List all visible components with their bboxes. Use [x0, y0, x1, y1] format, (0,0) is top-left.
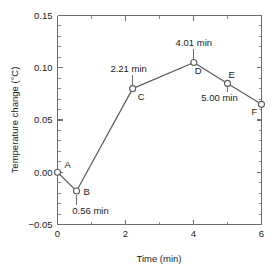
x-axis-title: Time (min)	[136, 253, 181, 264]
data-point-marker-e	[225, 80, 231, 86]
x-tick-label: 2	[123, 228, 128, 239]
data-point-marker-f	[259, 101, 265, 107]
callout-text-e: 5.00 min	[201, 92, 237, 103]
y-tick-label: 0.15	[34, 10, 53, 21]
callout-text-c: 2.21 min	[110, 63, 146, 74]
x-tick-label: 6	[259, 228, 264, 239]
y-axis-title: Temperature change (°C)	[9, 67, 20, 174]
point-label-d: D	[195, 65, 202, 76]
top-axis-minor-ticks	[92, 16, 228, 21]
data-point-marker-c	[130, 86, 136, 92]
point-label-c: C	[138, 91, 145, 102]
y-tick-label: 0.05	[34, 114, 53, 125]
point-label-f: F	[252, 106, 258, 117]
data-series-line	[58, 63, 262, 192]
y-tick-label: −0.05	[28, 219, 52, 230]
y-tick-label: 0.00	[34, 167, 53, 178]
point-label-b: B	[84, 186, 90, 197]
y-axis-tick-labels: 0.150.100.050.00−0.05	[28, 10, 52, 230]
y-tick-label: 0.10	[34, 62, 53, 73]
x-axis-tick-labels: 0246	[55, 228, 264, 239]
callout-text-d: 4.01 min	[176, 37, 212, 48]
data-point-marker-a	[55, 169, 61, 175]
point-label-a: A	[65, 159, 72, 170]
x-tick-label: 4	[191, 228, 196, 239]
point-label-e: E	[229, 69, 235, 80]
right-axis-minor-ticks	[257, 26, 262, 214]
callout-text-b: 0.56 min	[72, 205, 108, 216]
data-point-marker-b	[74, 188, 80, 194]
point-callout-annotations: 0.56 min2.21 min4.01 min5.00 min	[72, 37, 237, 217]
x-tick-label: 0	[55, 228, 60, 239]
chart-canvas: 0.150.100.050.00−0.05 0246 0.56 min2.21 …	[0, 0, 274, 270]
chart-figure: 0.150.100.050.00−0.05 0246 0.56 min2.21 …	[0, 0, 274, 270]
